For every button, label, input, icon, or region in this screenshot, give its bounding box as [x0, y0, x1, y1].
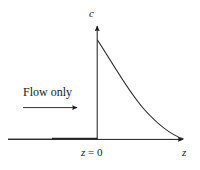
flow-only-annotation: Flow only	[23, 86, 72, 98]
origin-value: = 0	[85, 146, 102, 158]
origin-tick-label: z = 0	[81, 147, 103, 158]
y-axis-label: c	[89, 8, 94, 19]
x-axis-label: z	[182, 147, 186, 158]
concentration-decay-curve	[98, 40, 183, 139]
figure-container: c z z = 0 Flow only	[0, 0, 200, 170]
